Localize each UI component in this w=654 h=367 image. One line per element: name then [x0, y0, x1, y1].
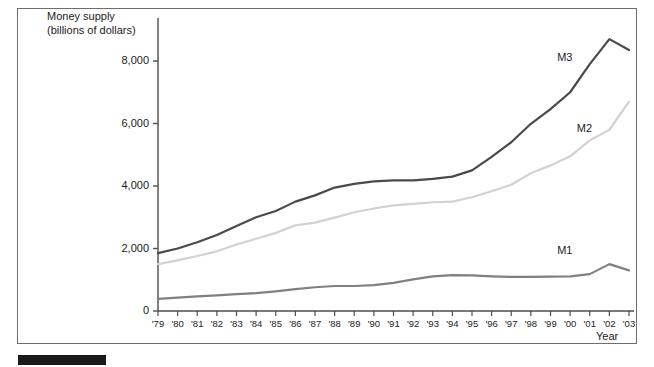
series-label-m3: M3: [557, 51, 572, 63]
series-label-m2: M2: [577, 122, 592, 134]
y-tick-label: 8,000: [103, 54, 149, 66]
y-tick-label: 2,000: [103, 242, 149, 254]
money-supply-figure: Money supply (billions of dollars) Year …: [0, 0, 654, 367]
series-line-m2: [158, 102, 629, 265]
footer-black-bar: [18, 355, 106, 365]
y-tick-label: 0: [103, 304, 149, 316]
x-tick-label: '03: [615, 318, 643, 329]
series-label-m1: M1: [557, 244, 572, 256]
series-line-m1: [158, 264, 629, 299]
line-chart-plot: [0, 0, 654, 367]
data-series: [158, 39, 629, 299]
y-tick-label: 6,000: [103, 117, 149, 129]
series-line-m3: [158, 39, 629, 253]
y-tick-label: 4,000: [103, 179, 149, 191]
